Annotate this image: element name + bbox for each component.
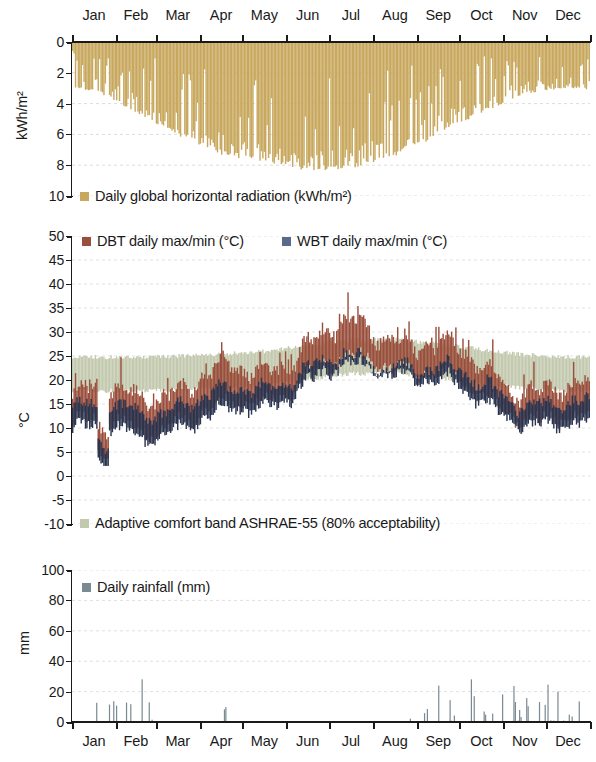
y-tick-10: 10 <box>20 421 64 435</box>
y-tick-35: 35 <box>20 301 64 315</box>
radiation-month-tick <box>116 35 118 42</box>
comfort-band-legend-label: Adaptive comfort band ASHRAE-55 (80% acc… <box>95 516 440 531</box>
month-label-jul: Jul <box>327 8 375 23</box>
rainfall-month-tick <box>200 722 202 729</box>
y-tick-80: 80 <box>20 593 64 607</box>
y-axis-cap <box>67 196 72 198</box>
month-label-apr: Apr <box>197 734 245 749</box>
month-label-jul: Jul <box>327 734 375 749</box>
radiation-month-tick <box>459 35 461 42</box>
y-tick-0: 0 <box>20 35 64 49</box>
month-label-jan: Jan <box>70 734 118 749</box>
rainfall-month-tick <box>546 722 548 729</box>
month-label-mar: Mar <box>154 734 202 749</box>
rainfall-daily-series <box>96 679 580 722</box>
radiation-month-tick <box>417 35 419 42</box>
radiation-month-tick <box>503 35 505 42</box>
radiation-month-tick <box>242 35 244 42</box>
temperature-legend-wbt: WBT daily max/min (°C) <box>282 234 447 249</box>
month-label-nov: Nov <box>501 734 549 749</box>
comfort-band-legend-swatch <box>80 519 89 528</box>
y-axis-cap <box>67 524 72 526</box>
month-label-oct: Oct <box>457 8 505 23</box>
month-label-jun: Jun <box>284 8 332 23</box>
rainfall-legend-swatch <box>82 583 91 592</box>
radiation-month-tick <box>373 35 375 42</box>
rainfall-month-tick <box>329 722 331 729</box>
radiation-month-tick <box>546 35 548 42</box>
radiation-plot-area <box>72 42 590 196</box>
dbt-legend-label: DBT daily max/min (°C) <box>97 234 244 249</box>
y-tick-20: 20 <box>20 685 64 699</box>
temperature-panel: °C -10-505101520253035404550 DBT daily m… <box>0 228 596 546</box>
y-tick-30: 30 <box>20 325 64 339</box>
y-tick-2: 2 <box>20 66 64 80</box>
month-label-dec: Dec <box>544 8 592 23</box>
dbt-legend-swatch <box>82 237 91 246</box>
y-tick-50: 50 <box>20 229 64 243</box>
y-tick-4: 4 <box>20 97 64 111</box>
month-label-apr: Apr <box>197 8 245 23</box>
radiation-top-axis <box>72 41 591 43</box>
y-tick-20: 20 <box>20 373 64 387</box>
y-tick-60: 60 <box>20 624 64 638</box>
rainfall-legend-label: Daily rainfall (mm) <box>97 580 210 595</box>
month-label-aug: Aug <box>371 8 419 23</box>
rainfall-month-tick <box>72 722 74 729</box>
rainfall-month-tick <box>242 722 244 729</box>
rainfall-month-tick <box>156 722 158 729</box>
rainfall-panel: mm 020406080100 Daily rainfall (mm) JanF… <box>0 560 596 762</box>
radiation-panel: JanFebMarAprMayJunJulAugSepOctNovDec kWh… <box>0 0 596 212</box>
y-tick-neg10: -10 <box>20 517 64 531</box>
rainfall-month-tick <box>417 722 419 729</box>
month-label-feb: Feb <box>112 734 160 749</box>
radiation-legend-label: Daily global horizontal radiation (kWh/m… <box>95 189 352 204</box>
y-tick-45: 45 <box>20 253 64 267</box>
wbt-legend-swatch <box>282 237 291 246</box>
radiation-svg <box>72 42 590 196</box>
y-tick-10: 10 <box>20 189 64 203</box>
radiation-legend-swatch <box>80 192 89 201</box>
rainfall-month-tick <box>590 722 592 729</box>
rainfall-month-tick <box>286 722 288 729</box>
y-tick-15: 15 <box>20 397 64 411</box>
climate-summary-figure: JanFebMarAprMayJunJulAugSepOctNovDec kWh… <box>0 0 596 762</box>
month-label-mar: Mar <box>154 8 202 23</box>
rainfall-month-tick <box>116 722 118 729</box>
y-tick-25: 25 <box>20 349 64 363</box>
radiation-month-tick <box>72 35 74 42</box>
y-tick-neg5: -5 <box>20 493 64 507</box>
month-label-sep: Sep <box>414 734 462 749</box>
wbt-legend-label: WBT daily max/min (°C) <box>297 234 447 249</box>
month-label-jan: Jan <box>70 8 118 23</box>
month-label-sep: Sep <box>414 8 462 23</box>
month-label-oct: Oct <box>457 734 505 749</box>
month-label-nov: Nov <box>501 8 549 23</box>
month-label-may: May <box>240 734 288 749</box>
y-tick-6: 6 <box>20 127 64 141</box>
radiation-month-tick <box>329 35 331 42</box>
y-tick-100: 100 <box>20 563 64 577</box>
rainfall-legend: Daily rainfall (mm) <box>82 580 210 595</box>
rainfall-baseline-axis <box>72 721 591 723</box>
temperature-plot-area <box>72 236 590 524</box>
y-tick-0: 0 <box>20 715 64 729</box>
month-label-dec: Dec <box>544 734 592 749</box>
temperature-legend-dbt: DBT daily max/min (°C) <box>82 234 244 249</box>
y-tick-8: 8 <box>20 158 64 172</box>
radiation-month-tick <box>200 35 202 42</box>
y-tick-40: 40 <box>20 277 64 291</box>
rainfall-month-tick <box>503 722 505 729</box>
month-label-aug: Aug <box>371 734 419 749</box>
rainfall-month-tick <box>459 722 461 729</box>
temperature-svg <box>72 236 590 524</box>
temperature-legend-comfort: Adaptive comfort band ASHRAE-55 (80% acc… <box>80 516 440 531</box>
rainfall-month-tick <box>373 722 375 729</box>
radiation-daily-series <box>72 42 590 170</box>
month-label-feb: Feb <box>112 8 160 23</box>
radiation-month-tick <box>286 35 288 42</box>
radiation-month-tick <box>590 35 592 42</box>
radiation-legend: Daily global horizontal radiation (kWh/m… <box>80 189 352 204</box>
month-label-may: May <box>240 8 288 23</box>
y-tick-5: 5 <box>20 445 64 459</box>
